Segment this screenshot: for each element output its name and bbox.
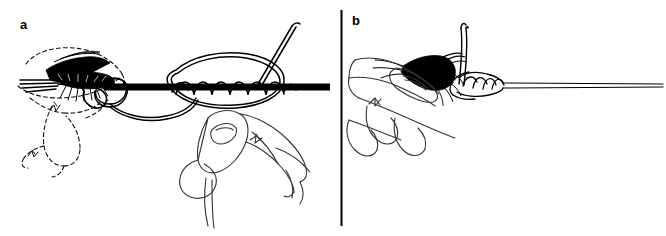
panel-divider <box>0 0 666 236</box>
figure-container: a <box>0 0 666 236</box>
